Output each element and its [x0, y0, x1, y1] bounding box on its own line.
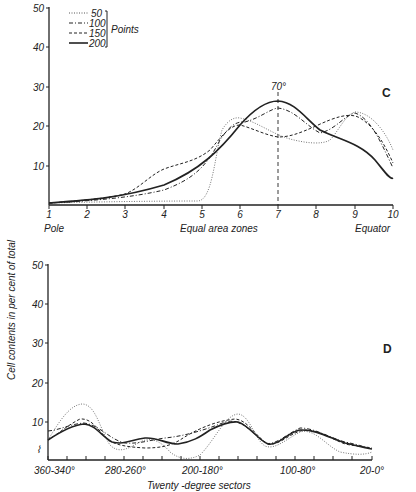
- d-ytick-40: 40: [32, 299, 44, 310]
- c-xtick-7: 7: [275, 209, 281, 220]
- d-ytick-50: 50: [32, 260, 44, 271]
- c-xtick-5: 5: [199, 209, 205, 220]
- d-ytick-30: 30: [32, 338, 44, 349]
- c-xtick-9: 9: [352, 209, 358, 220]
- c-panel-letter: C: [382, 86, 391, 100]
- d-xtick-20-0: 20-0°: [359, 465, 384, 476]
- legend: 50 100 150 200 Points: [69, 8, 139, 49]
- d-ytick-10: 10: [32, 417, 44, 428]
- panel-c: 50 40 30 20 10 1 2 3 4 5 6 7 8 9 10 Pole…: [32, 3, 399, 234]
- d-x-label: Twenty -degree sectors: [147, 480, 251, 491]
- legend-title: Points: [111, 24, 139, 35]
- c-ytick-20: 20: [32, 121, 45, 132]
- d-panel-letter: D: [383, 342, 392, 356]
- c-ytick-50: 50: [33, 3, 45, 14]
- panel-d: 50 40 30 20 10 ⌇ 360-340° 280-: [31, 260, 392, 491]
- c-xtick-2: 2: [83, 209, 90, 220]
- c-xtick-1: 1: [46, 209, 52, 220]
- c-equator-label: Equator: [355, 223, 391, 234]
- d-series-50: [48, 404, 372, 458]
- d-series-200: [48, 422, 372, 449]
- y-axis-label: Cell contents in per cent of total: [6, 239, 17, 380]
- c-series-100: [49, 108, 393, 203]
- d-series-150: [48, 419, 372, 448]
- c-xtick-3: 3: [122, 209, 128, 220]
- legend-200: 200: [88, 38, 106, 49]
- d-ytick-20: 20: [31, 378, 44, 389]
- d-axis-mark: ⌇: [36, 444, 41, 455]
- d-xtick-200-180: 200-180°: [181, 465, 223, 476]
- c-pole-label: Pole: [44, 223, 64, 234]
- d-xtick-100-80: 100-80°: [280, 465, 315, 476]
- c-x-label: Equal area zones: [180, 223, 258, 234]
- c-ytick-30: 30: [33, 82, 45, 93]
- c-xtick-10: 10: [387, 209, 399, 220]
- c-series-150: [49, 115, 393, 203]
- c-xtick-6: 6: [237, 209, 243, 220]
- c-ytick-40: 40: [33, 42, 45, 53]
- c-ytick-10: 10: [33, 161, 45, 172]
- c-xtick-4: 4: [161, 209, 167, 220]
- c-xtick-8: 8: [313, 209, 319, 220]
- d-xtick-360-340: 360-340°: [34, 465, 75, 476]
- figure: 50 40 30 20 10 1 2 3 4 5 6 7 8 9 10 Pole…: [0, 0, 416, 492]
- d-xtick-280-260: 280-260°: [104, 465, 146, 476]
- c-70deg-label: 70°: [271, 81, 286, 92]
- c-series-50: [49, 112, 393, 203]
